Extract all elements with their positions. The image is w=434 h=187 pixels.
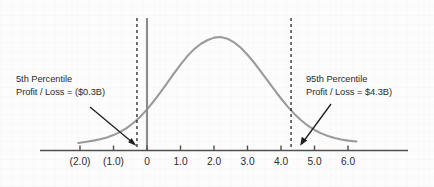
x-axis-tick-label: 0	[144, 156, 150, 167]
x-axis-tick-label: 3.0	[240, 156, 254, 167]
x-axis-tick-label: 6.0	[341, 156, 355, 167]
5th-percentile-title: 5th Percentile	[16, 73, 105, 86]
x-axis-tick-label: (1.0)	[103, 156, 124, 167]
95th-percentile-arrow	[300, 104, 331, 146]
x-axis-tick-label: 5.0	[307, 156, 321, 167]
x-axis-tick-label: 2.0	[207, 156, 221, 167]
x-axis-tick-label: 4.0	[274, 156, 288, 167]
distribution-chart: 5th Percentile Profit / Loss = ($0.3B) 9…	[0, 0, 434, 187]
x-axis-tick-label: 1.0	[173, 156, 187, 167]
95th-percentile-value: Profit / Loss = $4.3B)	[306, 86, 392, 99]
x-axis-tick-label: (2.0)	[70, 156, 91, 167]
95th-percentile-title: 95th Percentile	[306, 73, 392, 86]
95th-percentile-annotation: 95th Percentile Profit / Loss = $4.3B)	[306, 73, 392, 98]
5th-percentile-annotation: 5th Percentile Profit / Loss = ($0.3B)	[16, 73, 105, 98]
5th-percentile-value: Profit / Loss = ($0.3B)	[16, 86, 105, 99]
